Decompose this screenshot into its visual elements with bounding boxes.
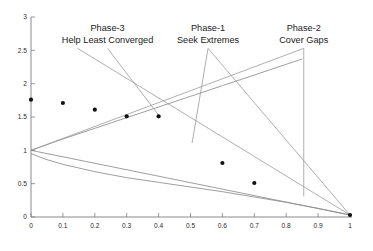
- x-tick-label: 0.2: [90, 222, 99, 229]
- data-point: [220, 161, 224, 165]
- x-tick-label: 0.1: [58, 222, 67, 229]
- x-tick-label: 0.4: [154, 222, 163, 229]
- x-tick-label: 0.3: [122, 222, 131, 229]
- y-tick-label: 2.5: [18, 47, 27, 54]
- y-tick-label: 0: [23, 213, 27, 220]
- data-point: [61, 101, 65, 105]
- y-tick-label: 0.5: [18, 180, 27, 187]
- x-tick-label: 0.8: [282, 222, 291, 229]
- phase-1-label-line2: Seek Extremes: [177, 35, 240, 45]
- data-point: [29, 98, 33, 102]
- data-point: [93, 108, 97, 112]
- data-point: [125, 114, 129, 118]
- y-tick-label: 2: [23, 80, 27, 87]
- data-point: [252, 181, 256, 185]
- phase-1-label-line1: Phase-1: [191, 23, 225, 33]
- data-point: [348, 213, 352, 217]
- x-tick-label: 0.5: [186, 222, 195, 229]
- chart-canvas: 00.10.20.30.40.50.60.70.80.91 00.511.522…: [0, 0, 373, 251]
- x-tick-label: 0.9: [314, 222, 323, 229]
- x-tick-label: 1: [348, 222, 352, 229]
- phase-3-label-line2: Help Least Converged: [62, 35, 153, 45]
- y-tick-label: 1: [23, 147, 27, 154]
- x-tick-label: 0.7: [250, 222, 259, 229]
- y-tick-label: 1.5: [18, 113, 27, 120]
- phase-2-label-line2: Cover Gaps: [279, 35, 328, 45]
- phase-3-label-line1: Phase-3: [90, 23, 124, 33]
- data-point: [157, 114, 161, 118]
- y-tick-label: 3: [23, 13, 27, 20]
- x-tick-label: 0: [29, 222, 33, 229]
- phase-2-label-line1: Phase-2: [287, 23, 321, 33]
- x-tick-label: 0.6: [218, 222, 227, 229]
